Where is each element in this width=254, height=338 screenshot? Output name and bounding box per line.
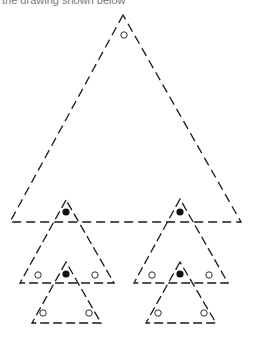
filled-dot-icon: [62, 208, 69, 215]
triangle-medium-right: [134, 199, 228, 283]
hollow-dot-icon: [206, 272, 212, 278]
hollow-dot-icon: [92, 272, 98, 278]
filled-dot-icon: [176, 208, 183, 215]
triangle-small-left: [32, 262, 101, 323]
hollow-dot-icon: [86, 310, 92, 316]
hollow-dot-icon: [121, 32, 127, 38]
hollow-dot-icon: [201, 310, 207, 316]
filled-dot-icon: [176, 270, 183, 277]
hollow-dot-icon: [40, 310, 46, 316]
dashed-triangle-outline: [10, 15, 241, 222]
filled-dot-icon: [62, 270, 69, 277]
triangle-diagram: [0, 0, 254, 338]
hollow-dot-icon: [35, 272, 41, 278]
triangle-small-right: [146, 262, 216, 323]
hollow-dot-icon: [155, 310, 161, 316]
hollow-dot-icon: [149, 272, 155, 278]
triangle-large: [10, 15, 241, 222]
